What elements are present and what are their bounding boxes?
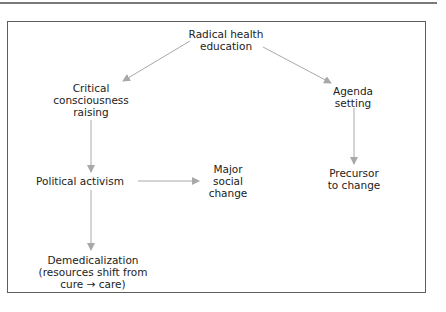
node-text: (resources shift from <box>39 266 148 278</box>
arrow-radical-to-critical <box>123 41 190 81</box>
node-text: setting <box>333 97 373 109</box>
node-major-social-change: Major social change <box>209 163 248 199</box>
node-text: Political activism <box>36 175 124 187</box>
node-text: raising <box>53 106 129 118</box>
node-text: Critical <box>53 82 129 94</box>
arrow-radical-to-agenda <box>263 47 331 83</box>
node-precursor-to-change: Precursor to change <box>328 167 381 191</box>
node-text: education <box>189 40 264 52</box>
node-text: Agenda <box>333 85 373 97</box>
node-agenda-setting: Agenda setting <box>333 85 373 109</box>
node-critical-consciousness-raising: Critical consciousness raising <box>53 82 129 118</box>
node-political-activism: Political activism <box>36 175 124 187</box>
node-text: Radical health <box>189 28 264 40</box>
node-demedicalization: Demedicalization (resources shift from c… <box>39 254 148 290</box>
node-text: Precursor <box>328 167 381 179</box>
node-text: Demedicalization <box>39 254 148 266</box>
node-radical-health-education: Radical health education <box>189 28 264 52</box>
node-text: Major <box>209 163 248 175</box>
node-text: change <box>209 187 248 199</box>
node-text: to change <box>328 179 381 191</box>
node-text: social <box>209 175 248 187</box>
node-text: consciousness <box>53 94 129 106</box>
node-text: cure → care) <box>39 278 148 290</box>
